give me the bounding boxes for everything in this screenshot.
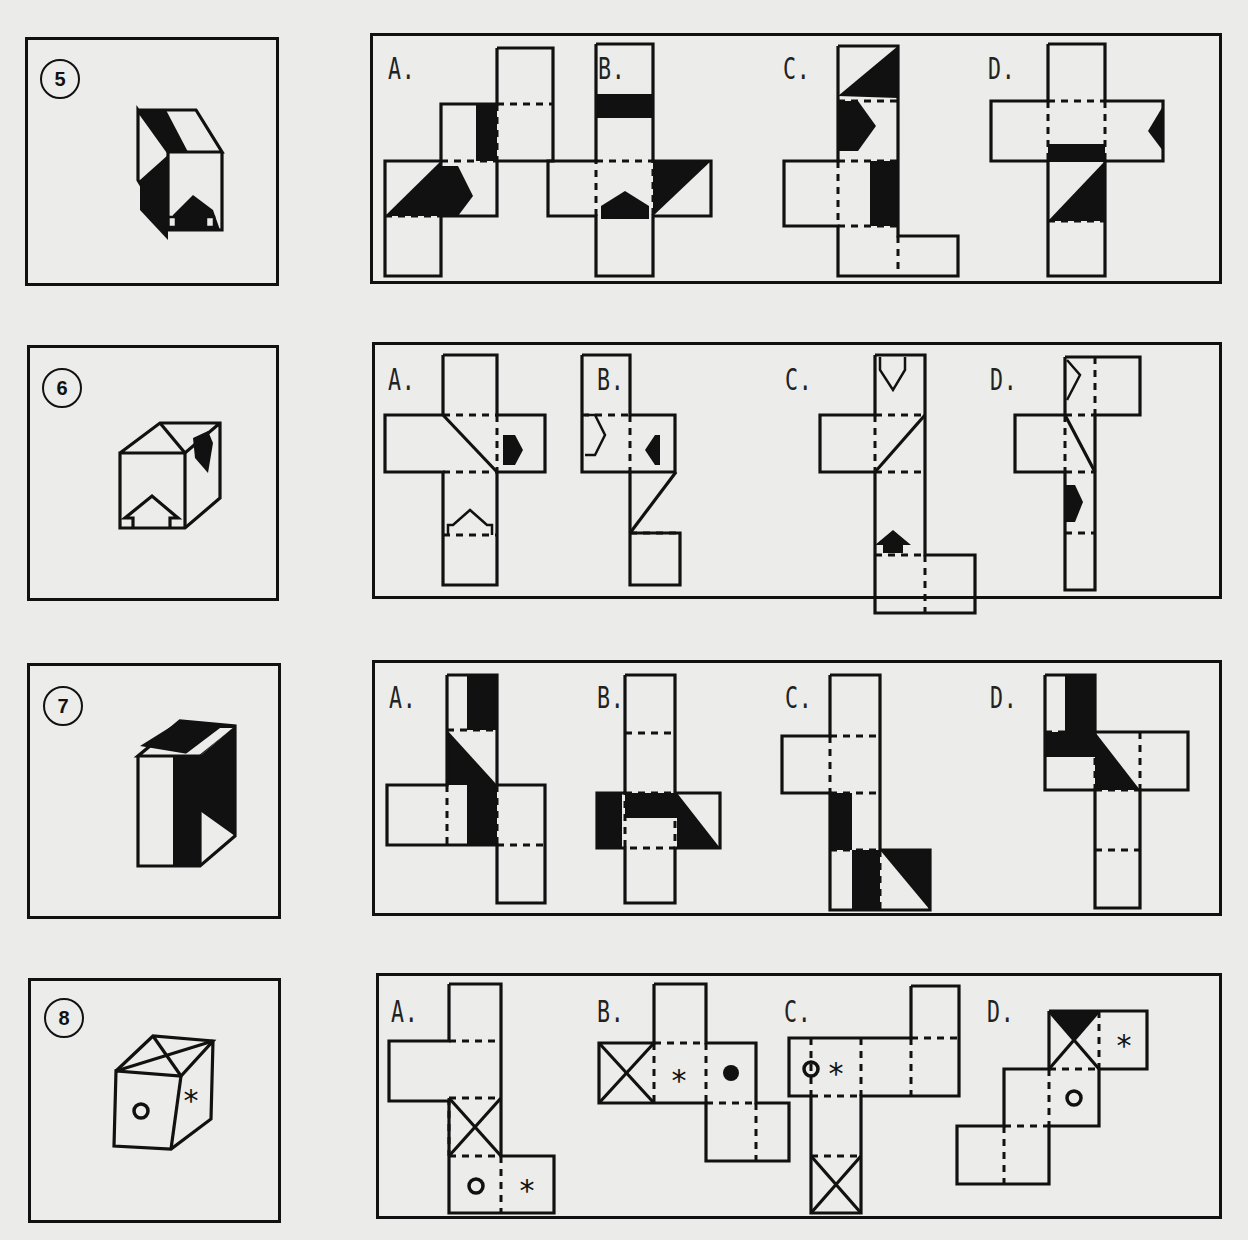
option-c-net[interactable]: [770, 663, 990, 923]
option-d-net[interactable]: [975, 345, 1215, 605]
option-a-net[interactable]: [375, 345, 595, 605]
option-d-net[interactable]: *: [979, 976, 1219, 1226]
option-a-net[interactable]: [373, 36, 573, 286]
svg-text:*: *: [1117, 1028, 1132, 1063]
question-5-cube-panel: 5: [25, 37, 279, 286]
option-b-net[interactable]: [570, 345, 790, 605]
svg-text:*: *: [829, 1056, 844, 1091]
question-5-options-panel: A. B. C. D.: [370, 33, 1222, 284]
option-a-net[interactable]: [375, 663, 595, 923]
svg-text:*: *: [672, 1063, 687, 1098]
option-d-net[interactable]: [973, 36, 1213, 286]
option-c-net[interactable]: *: [779, 976, 999, 1226]
option-b-net[interactable]: [573, 36, 793, 286]
option-a-net[interactable]: *: [379, 976, 599, 1226]
question-6-cube-panel: 6: [27, 345, 279, 601]
cube-5-icon: [28, 40, 282, 289]
cube-6-icon: [30, 348, 282, 604]
question-7-cube-panel: 7: [27, 663, 281, 919]
svg-text:*: *: [520, 1173, 535, 1208]
option-b-net[interactable]: *: [579, 976, 799, 1226]
option-c-net[interactable]: [778, 36, 998, 286]
asterisk-symbol-icon: *: [184, 1083, 199, 1118]
cube-7-icon: [30, 666, 284, 922]
circle-symbol-icon: [134, 1104, 148, 1118]
question-6-options-panel: A. B. C. D.: [372, 342, 1222, 599]
question-8-options-panel: A. B. C. D. * * *: [376, 973, 1222, 1219]
question-7-options-panel: A. B. C. D.: [372, 660, 1222, 916]
cube-8-icon: *: [31, 981, 284, 1226]
option-c-net[interactable]: [775, 345, 995, 605]
option-b-net[interactable]: [575, 663, 795, 923]
question-8-cube-panel: 8 *: [28, 978, 281, 1223]
option-d-net[interactable]: [975, 663, 1215, 923]
